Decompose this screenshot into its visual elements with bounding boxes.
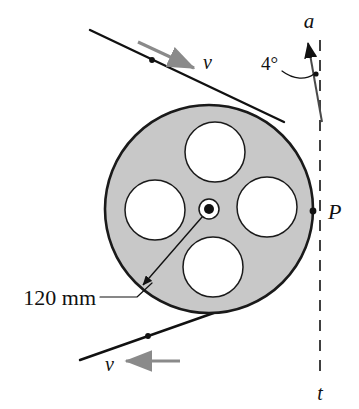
label-point-p: P <box>327 199 341 224</box>
velocity-arrow-top <box>138 42 194 68</box>
hole-right <box>237 177 297 237</box>
hub-center-dot <box>204 204 214 214</box>
label-velocity-bottom: v <box>105 353 114 375</box>
hole-top <box>185 122 245 182</box>
point-p-dot <box>310 208 317 215</box>
figure-root: a 4° P t v v 120 mm <box>0 0 359 409</box>
label-radius-dimension: 120 mm <box>23 285 96 310</box>
label-angle: 4° <box>261 53 278 74</box>
wheel-diagram-svg: a 4° P t v v 120 mm <box>0 0 359 409</box>
label-acceleration: a <box>304 9 315 33</box>
angle-leader-curve <box>282 71 314 78</box>
label-tangent-line: t <box>317 382 323 404</box>
hole-left <box>125 180 185 240</box>
label-velocity-top: v <box>203 51 212 73</box>
belt-upper-marker-dot <box>149 57 155 63</box>
belt-lower-marker-dot <box>145 333 151 339</box>
hole-bottom <box>183 237 243 297</box>
